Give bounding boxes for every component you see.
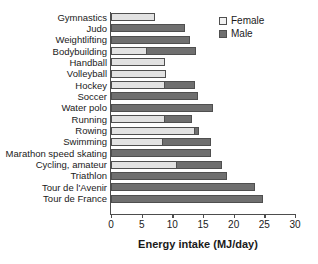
x-tick	[203, 214, 204, 218]
category-label: Bodybuilding	[0, 47, 111, 56]
x-tick-label: 30	[280, 219, 310, 231]
x-tick	[111, 214, 112, 218]
plot-area: GymnasticsJudoWeightliftingBodybuildingH…	[111, 13, 295, 213]
category-label: Water polo	[0, 103, 111, 112]
bar-row: Running	[111, 115, 295, 123]
x-tick	[295, 214, 296, 218]
x-tick-label: 25	[249, 219, 279, 231]
chart-legend: Female Male	[219, 14, 264, 40]
category-label: Running	[0, 115, 111, 124]
bar-row: Tour de l'Avenir	[111, 183, 295, 191]
bar-row: Rowing	[111, 127, 295, 135]
bar-male[interactable]	[111, 195, 263, 203]
bar-row: Marathon speed skating	[111, 149, 295, 157]
bar-male[interactable]	[111, 36, 190, 44]
category-label: Gymnastics	[0, 13, 111, 22]
category-label: Soccer	[0, 92, 111, 101]
bar-row: Tour de France	[111, 195, 295, 203]
bar-female[interactable]	[111, 161, 177, 169]
x-tick-label: 5	[127, 219, 157, 231]
legend-item-female[interactable]: Female	[219, 14, 264, 27]
bar-female[interactable]	[111, 138, 163, 146]
bar-female[interactable]	[111, 47, 147, 55]
legend-item-male[interactable]: Male	[219, 27, 264, 40]
category-label: Volleyball	[0, 69, 111, 78]
bar-female[interactable]	[111, 81, 165, 89]
category-label: Tour de France	[0, 194, 111, 203]
bar-male[interactable]	[111, 183, 255, 191]
x-tick	[142, 214, 143, 218]
bar-row: Cycling, amateur	[111, 161, 295, 169]
bar-male[interactable]	[111, 24, 185, 32]
bar-row: Volleyball	[111, 70, 295, 78]
bar-row: Soccer	[111, 92, 295, 100]
bar-male[interactable]	[111, 149, 211, 157]
category-label: Tour de l'Avenir	[0, 183, 111, 192]
category-label: Cycling, amateur	[0, 160, 111, 169]
bar-row: Water polo	[111, 104, 295, 112]
bar-row: Hockey	[111, 81, 295, 89]
legend-swatch-male-icon	[219, 30, 227, 38]
bar-row: Handball	[111, 58, 295, 66]
category-label: Swimming	[0, 137, 111, 146]
category-label: Hockey	[0, 81, 111, 90]
bar-female[interactable]	[111, 115, 165, 123]
x-tick-label: 10	[157, 219, 187, 231]
bar-male[interactable]	[111, 104, 213, 112]
x-axis-title-text: Energy intake (MJ/day)	[138, 238, 258, 250]
legend-label-male: Male	[231, 28, 253, 39]
bar-row: Weightlifting	[111, 36, 295, 44]
bar-male[interactable]	[111, 172, 227, 180]
bar-row: Swimming	[111, 138, 295, 146]
legend-swatch-female-icon	[219, 17, 227, 25]
x-tick	[234, 214, 235, 218]
bar-row: Gymnastics	[111, 13, 295, 21]
x-tick	[264, 214, 265, 218]
x-axis-title: Energy intake (MJ/day)	[0, 238, 318, 250]
x-tick-label: 15	[188, 219, 218, 231]
x-tick	[172, 214, 173, 218]
bar-female[interactable]	[111, 58, 165, 66]
bar-female[interactable]	[111, 13, 155, 21]
category-label: Rowing	[0, 126, 111, 135]
bar-row: Triathlon	[111, 172, 295, 180]
category-label: Judo	[0, 24, 111, 33]
bar-male[interactable]	[111, 92, 198, 100]
category-label: Triathlon	[0, 171, 111, 180]
bar-female[interactable]	[111, 127, 195, 135]
x-tick-label: 20	[219, 219, 249, 231]
bar-row: Bodybuilding	[111, 47, 295, 55]
legend-label-female: Female	[231, 15, 264, 26]
energy-intake-bar-chart: 051015202530 GymnasticsJudoWeightlifting…	[0, 0, 318, 264]
category-label: Handball	[0, 58, 111, 67]
bar-female[interactable]	[111, 70, 166, 78]
bar-row: Judo	[111, 24, 295, 32]
x-tick-label: 0	[96, 219, 126, 231]
category-label: Weightlifting	[0, 35, 111, 44]
category-label: Marathon speed skating	[0, 149, 111, 158]
